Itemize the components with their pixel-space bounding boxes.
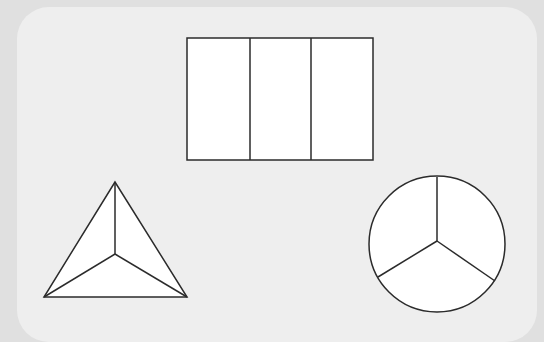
rectangle-thirds — [187, 38, 373, 160]
triangle-thirds — [44, 182, 187, 297]
rectangle-shape — [187, 38, 373, 160]
circle-thirds — [369, 176, 505, 312]
